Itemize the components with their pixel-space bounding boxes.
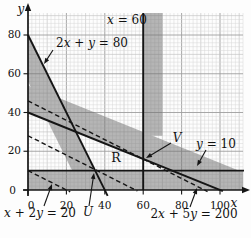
x-tick-label-100: 100 bbox=[210, 199, 230, 211]
label-axis-x-label: x bbox=[231, 196, 238, 210]
x-tick-label-20: 20 bbox=[60, 199, 73, 211]
shaded-region-right-of-x-60 bbox=[143, 13, 162, 136]
label-region-R: R bbox=[111, 150, 121, 165]
label-eq-2x-y-80: 2x + y = 80 bbox=[56, 36, 128, 50]
y-tick-label-80: 80 bbox=[8, 28, 21, 40]
lp-feasible-region-figure: x = 602x + y = 80y = 10x + 2y = 202x + 5… bbox=[0, 0, 251, 238]
x-tick-label-80: 80 bbox=[175, 199, 188, 211]
arrow-2x-5y-200 bbox=[190, 192, 196, 207]
lp-graph-canvas: x = 602x + y = 80y = 10x + 2y = 202x + 5… bbox=[0, 0, 251, 238]
y-tick-label-0: 0 bbox=[9, 184, 16, 196]
label-eq-y-10: y = 10 bbox=[195, 137, 236, 151]
y-axis-arrowhead bbox=[25, 3, 31, 11]
label-axis-y-label: y bbox=[17, 2, 25, 16]
arrow-2x-y-80-head bbox=[44, 58, 49, 64]
label-point-V: V bbox=[173, 131, 183, 145]
x-tick-label-40: 40 bbox=[98, 199, 111, 211]
x-tick-label-0: 0 bbox=[28, 199, 35, 211]
y-tick-label-60: 60 bbox=[8, 67, 21, 79]
x-axis-arrowhead bbox=[242, 187, 250, 193]
x-tick-label-60: 60 bbox=[137, 199, 150, 211]
label-eq-x-60: x = 60 bbox=[107, 13, 147, 27]
label-point-U: U bbox=[83, 205, 94, 219]
y-tick-label-20: 20 bbox=[8, 144, 21, 156]
y-tick-label-40: 40 bbox=[8, 106, 21, 118]
